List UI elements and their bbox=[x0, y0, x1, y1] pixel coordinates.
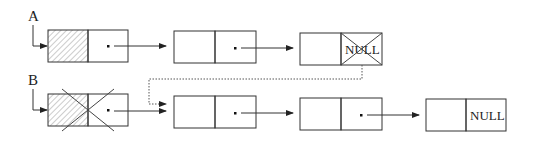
pointer-dot bbox=[107, 45, 110, 48]
node-a1 bbox=[48, 30, 166, 62]
linked-list-diagram: A NULL B bbox=[0, 0, 533, 143]
null-label-b4: NULL bbox=[470, 108, 505, 123]
pointer-dot bbox=[107, 109, 110, 112]
pointer-a-label: A bbox=[28, 8, 39, 24]
pointer-b: B bbox=[28, 72, 47, 110]
pointer-dot bbox=[234, 112, 237, 115]
node-b1 bbox=[48, 89, 166, 131]
null-label-a3: NULL bbox=[345, 42, 380, 57]
pointer-a: A bbox=[28, 8, 47, 46]
node-a2 bbox=[174, 31, 293, 63]
pointer-b-label: B bbox=[28, 72, 38, 88]
node-a3: NULL bbox=[300, 33, 382, 65]
node-b2 bbox=[174, 96, 293, 128]
pointer-dot bbox=[360, 114, 363, 117]
node-b4: NULL bbox=[426, 99, 506, 131]
node-b3 bbox=[300, 98, 419, 130]
pointer-dot bbox=[234, 47, 237, 50]
